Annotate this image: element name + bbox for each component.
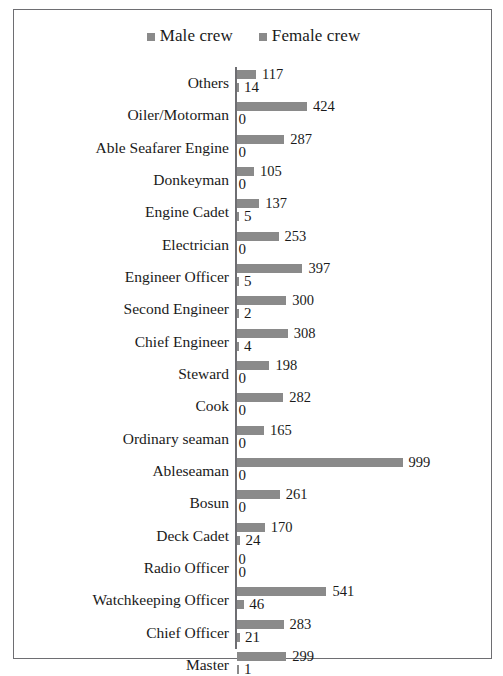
bar-male[interactable] (237, 296, 287, 305)
bar-row: Bosun2610 (14, 487, 493, 519)
bar-row: Ableseaman9990 (14, 455, 493, 487)
bar-track-female: 0 (237, 374, 247, 383)
bar-track-female: 0 (237, 568, 247, 577)
bar-value-label: 0 (239, 177, 247, 192)
bar-group: 1650 (237, 423, 493, 455)
bar-male[interactable] (237, 458, 403, 467)
category-label: Radio Officer (144, 560, 229, 576)
bar-row: Oiler/Motorman4240 (14, 99, 493, 131)
bar-track-female: 0 (237, 406, 247, 415)
bar-female[interactable] (237, 536, 241, 545)
bar-row: Second Engineer3002 (14, 293, 493, 325)
bar-male[interactable] (237, 523, 265, 532)
bar-value-label: 0 (239, 403, 247, 418)
category-label: Donkeyman (153, 172, 229, 188)
bar-value-label: 287 (290, 132, 312, 147)
bar-value-label: 0 (239, 565, 247, 580)
bar-female[interactable] (237, 212, 240, 221)
bar-track-female: 1 (237, 665, 252, 674)
bar-group: 2530 (237, 229, 493, 261)
legend-item-female-crew: Female crew (259, 27, 360, 44)
bar-value-label: 14 (244, 80, 259, 95)
bar-value-label: 0 (239, 371, 247, 386)
bar-track-female: 0 (237, 471, 247, 480)
bar-track-male: 137 (237, 199, 288, 208)
chart-frame: Male crew Female crew Others11714Oiler/M… (13, 9, 492, 659)
bar-female[interactable] (237, 277, 240, 286)
bar-male[interactable] (237, 652, 287, 661)
bar-value-label: 0 (239, 112, 247, 127)
category-label: Second Engineer (124, 301, 229, 317)
bar-group: 00 (237, 552, 493, 584)
legend-swatch-male-icon (147, 33, 155, 41)
category-label: Watchkeeping Officer (92, 592, 229, 608)
category-label: Oiler/Motorman (127, 107, 229, 123)
bar-value-label: 105 (260, 164, 282, 179)
bar-female[interactable] (237, 342, 240, 351)
bar-male[interactable] (237, 587, 327, 596)
bar-female[interactable] (237, 309, 240, 318)
bar-female[interactable] (237, 633, 240, 642)
bar-value-label: 999 (409, 455, 431, 470)
bar-track-male: 170 (237, 523, 293, 532)
category-label: Ordinary seaman (123, 431, 229, 447)
bar-track-female: 14 (237, 83, 260, 92)
bar-male[interactable] (237, 232, 279, 241)
bar-male[interactable] (237, 490, 280, 499)
bar-female[interactable] (237, 600, 245, 609)
bar-value-label: 198 (275, 358, 297, 373)
bar-track-male: 282 (237, 393, 312, 402)
category-label: Others (188, 75, 229, 91)
bar-track-male: 424 (237, 102, 335, 111)
bar-male[interactable] (237, 167, 254, 176)
bar-track-male: 117 (237, 70, 284, 79)
bar-value-label: 299 (292, 649, 314, 664)
bar-row: Donkeyman1050 (14, 164, 493, 196)
bar-row: Deck Cadet17024 (14, 520, 493, 552)
bar-value-label: 300 (292, 293, 314, 308)
bar-male[interactable] (237, 620, 284, 629)
bar-track-female: 0 (237, 439, 247, 448)
chart-legend: Male crew Female crew (14, 27, 493, 44)
bar-value-label: 424 (313, 99, 335, 114)
bar-female[interactable] (237, 665, 240, 674)
bar-male[interactable] (237, 264, 303, 273)
bar-group: 1980 (237, 358, 493, 390)
bar-male[interactable] (237, 70, 256, 79)
category-label: Bosun (189, 495, 229, 511)
bar-value-label: 541 (332, 584, 354, 599)
category-label: Cook (195, 398, 229, 414)
bar-track-female: 0 (237, 148, 247, 157)
bar-row: Ordinary seaman1650 (14, 423, 493, 455)
bar-track-male: 165 (237, 426, 292, 435)
legend-swatch-female-icon (259, 33, 267, 41)
bar-row: Master2991 (14, 649, 493, 676)
bar-value-label: 24 (245, 533, 260, 548)
bar-track-female: 46 (237, 600, 265, 609)
bar-value-label: 2 (244, 306, 252, 321)
legend-item-male-crew: Male crew (147, 27, 233, 44)
bar-value-label: 0 (239, 436, 247, 451)
bar-track-male: 300 (237, 296, 315, 305)
bar-track-female: 4 (237, 342, 252, 351)
bar-male[interactable] (237, 329, 288, 338)
bar-male[interactable] (237, 426, 264, 435)
bar-group: 1050 (237, 164, 493, 196)
bar-track-male: 999 (237, 458, 431, 467)
plot-area: Others11714Oiler/Motorman4240Able Seafar… (14, 59, 493, 657)
bar-male[interactable] (237, 361, 270, 370)
bar-track-female: 0 (237, 180, 247, 189)
bar-track-female: 0 (237, 115, 247, 124)
bar-male[interactable] (237, 393, 284, 402)
bar-row: Electrician2530 (14, 229, 493, 261)
bar-group: 54146 (237, 584, 493, 616)
bar-track-female: 2 (237, 309, 252, 318)
bar-male[interactable] (237, 102, 307, 111)
bar-value-label: 170 (271, 520, 293, 535)
category-label: Able Seafarer Engine (96, 140, 229, 156)
bar-female[interactable] (237, 83, 240, 92)
bar-group: 2820 (237, 390, 493, 422)
bar-track-male: 253 (237, 232, 307, 241)
bar-male[interactable] (237, 135, 285, 144)
bar-male[interactable] (237, 199, 260, 208)
